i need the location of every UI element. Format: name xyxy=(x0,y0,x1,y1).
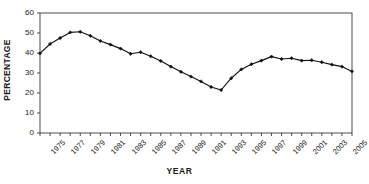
data-point-marker xyxy=(280,57,283,60)
data-point-marker xyxy=(310,59,313,62)
plot-frame xyxy=(40,13,352,133)
data-point-marker xyxy=(330,63,333,66)
data-point-marker xyxy=(290,57,293,60)
data-point-marker xyxy=(79,30,82,33)
data-point-marker xyxy=(270,55,273,58)
data-point-marker xyxy=(139,51,142,54)
data-point-marker xyxy=(260,59,263,62)
data-point-marker xyxy=(320,61,323,64)
data-series-line xyxy=(40,32,352,90)
data-point-marker xyxy=(109,43,112,46)
data-point-marker xyxy=(300,59,303,62)
